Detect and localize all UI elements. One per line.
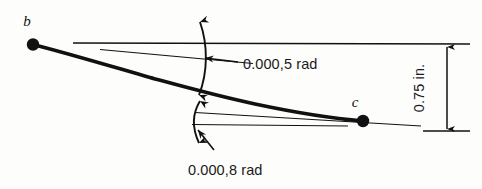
lower-slope-leader-line [198, 130, 214, 150]
node-b-dot [27, 38, 39, 50]
lower-angle-arc [194, 101, 200, 143]
node-c-label: c [352, 94, 359, 110]
diagram-canvas: b c 0.000,5 rad 0.000,8 rad 0.75 in. [0, 0, 482, 189]
lower-slope-annotation: 0.000,8 rad [188, 162, 262, 178]
vertical-dimension-label: 0.75 in. [411, 64, 427, 112]
lower-horizontal-datum-line [192, 125, 348, 127]
upper-horizontal-datum-line [73, 43, 470, 44]
node-b-group: b [23, 13, 39, 51]
node-b-label: b [23, 13, 31, 29]
upper-slope-annotation: 0.000,5 rad [243, 56, 317, 72]
beam-deflection-figure: b c 0.000,5 rad 0.000,8 rad 0.75 in. [0, 0, 482, 189]
node-c-dot [357, 115, 369, 127]
